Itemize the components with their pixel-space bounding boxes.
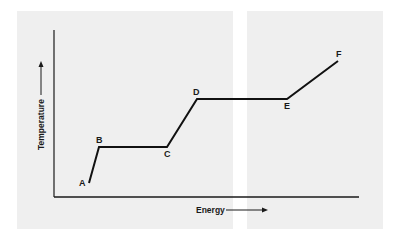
y-axis-label: Temperature	[36, 99, 46, 150]
point-label-f: F	[336, 49, 342, 59]
heating-curve-line	[89, 61, 338, 183]
point-label-c: C	[164, 149, 171, 159]
point-label-b: B	[96, 135, 103, 145]
point-label-d: D	[193, 87, 200, 97]
point-label-e: E	[284, 101, 290, 111]
y-axis-arrow-icon	[39, 61, 44, 95]
heating-curve-chart: A B C D E F Energy Temperature	[0, 0, 401, 241]
point-label-a: A	[79, 178, 86, 188]
x-axis-label: Energy	[196, 205, 225, 215]
x-axis-arrow-icon	[226, 208, 268, 213]
